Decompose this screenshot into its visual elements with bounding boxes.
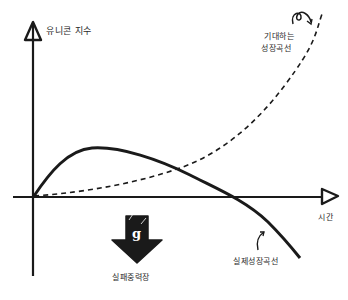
x-axis [13, 189, 338, 204]
x-axis-label: 시간 [318, 212, 333, 223]
actual-growth-curve [34, 148, 300, 258]
y-axis [25, 22, 41, 276]
y-axis-label: 유니콘 지수 [46, 26, 92, 37]
gravity-letter: g [132, 226, 141, 241]
gravity-label: 실패중력장 [112, 272, 150, 283]
actual-curve-label: 실제성장곡선 [233, 256, 278, 267]
x-axis-arrowhead-icon [322, 189, 338, 204]
expected-curve-label-line1: 기대하는 [264, 31, 294, 42]
expected-curve-label-line2: 성장곡선 [261, 43, 291, 54]
diagram-canvas [0, 0, 348, 300]
